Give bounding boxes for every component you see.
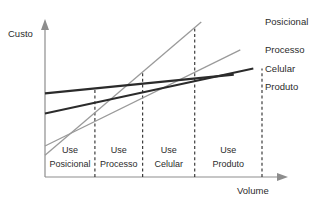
region-label-line2-3: Produto — [213, 159, 245, 169]
region-label-line1-1: Use — [111, 145, 127, 155]
series-label-celular: Celular — [265, 63, 295, 74]
x-axis-arrowhead — [277, 173, 288, 181]
axes-group — [41, 19, 288, 181]
y-axis-label: Custo — [8, 28, 33, 39]
x-axis-label: Volume — [237, 185, 269, 196]
series-label-posicional: Posicional — [265, 16, 308, 27]
region-label-line1-0: Use — [62, 145, 78, 155]
region-label-line2-0: Posicional — [49, 159, 90, 169]
region-label-line2-2: Celular — [154, 159, 183, 169]
series-labels-group: PosicionalProcessoCelularProduto — [265, 16, 308, 92]
cost-volume-chart: Custo Volume PosicionalProcessoCelularPr… — [0, 0, 318, 201]
series-label-produto: Produto — [265, 81, 298, 92]
region-label-line1-3: Use — [220, 145, 236, 155]
series-label-processo: Processo — [265, 44, 305, 55]
region-label-line2-1: Processo — [100, 159, 138, 169]
series-line-produto — [45, 75, 234, 94]
region-label-line1-2: Use — [161, 145, 177, 155]
series-lines-group — [45, 22, 253, 155]
series-line-posicional — [45, 22, 201, 155]
y-axis-arrowhead — [41, 19, 49, 30]
chart-canvas: Custo Volume PosicionalProcessoCelularPr… — [0, 0, 318, 201]
region-labels-group: UsePosicionalUseProcessoUseCelularUsePro… — [49, 145, 244, 169]
